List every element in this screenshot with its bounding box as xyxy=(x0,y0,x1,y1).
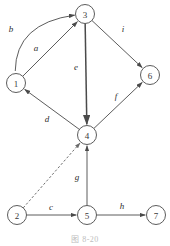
edge-label-g: g xyxy=(75,172,80,182)
node-label-1: 1 xyxy=(14,79,19,89)
graph-edge-e xyxy=(85,23,87,124)
edge-label-a: a xyxy=(34,43,39,53)
graph-edge-f xyxy=(94,82,142,128)
graph-edge-d xyxy=(25,89,80,129)
node-label-4: 4 xyxy=(85,131,90,141)
graph-edge-b xyxy=(15,15,74,71)
edge-label-f: f xyxy=(115,91,119,101)
figure-container: baiefdgch 1234567 图 8-20 xyxy=(0,0,170,246)
edge-label-i: i xyxy=(122,24,125,34)
node-label-7: 7 xyxy=(154,211,159,221)
graph-node-4[interactable]: 4 xyxy=(78,126,97,145)
edge-label-c: c xyxy=(49,202,53,212)
graph-node-5[interactable]: 5 xyxy=(78,206,97,225)
edge-label-d: d xyxy=(45,114,50,124)
edge-label-h: h xyxy=(120,201,125,211)
figure-caption: 图 8-20 xyxy=(0,233,170,244)
graph-node-7[interactable]: 7 xyxy=(147,206,166,225)
edge-label-b: b xyxy=(9,24,14,34)
directed-graph-diagram: baiefdgch 1234567 xyxy=(0,0,170,246)
edge-labels-layer: baiefdgch xyxy=(9,24,125,212)
node-label-3: 3 xyxy=(83,10,88,20)
graph-edge-2-4 xyxy=(23,143,80,208)
graph-node-3[interactable]: 3 xyxy=(76,5,95,24)
graph-edge-a xyxy=(23,22,78,77)
graph-node-2[interactable]: 2 xyxy=(8,206,27,225)
graph-node-1[interactable]: 1 xyxy=(7,74,26,93)
edge-label-e: e xyxy=(74,62,78,72)
graph-edge-i xyxy=(92,21,142,68)
node-label-2: 2 xyxy=(15,211,20,221)
node-label-5: 5 xyxy=(85,211,90,221)
graph-node-6[interactable]: 6 xyxy=(141,66,160,85)
node-label-6: 6 xyxy=(148,71,153,81)
